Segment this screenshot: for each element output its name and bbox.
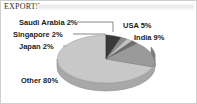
pie-label-japan: Japan 2% [19, 42, 54, 51]
pie-label-india: India 9% [134, 33, 164, 42]
leader-line-saudi-arabia [77, 22, 113, 32]
pie-top-face [57, 35, 154, 83]
page-title: EXPORTS [4, 2, 40, 12]
chart-figure: EXPORTS [0, 0, 197, 104]
pie-label-other: Other 80% [21, 76, 58, 85]
pie-label-saudi-arabia: Saudi Arabia 2% [19, 18, 78, 27]
pie-label-usa: USA 5% [123, 21, 151, 30]
pie-chart-graphic [1, 14, 196, 103]
figure-header: EXPORTS [1, 1, 197, 14]
pie-label-singapore: Singapore 2% [13, 30, 63, 39]
pie-chart: Saudi Arabia 2% Singapore 2% Japan 2% US… [1, 14, 196, 103]
header-divider [37, 4, 194, 10]
